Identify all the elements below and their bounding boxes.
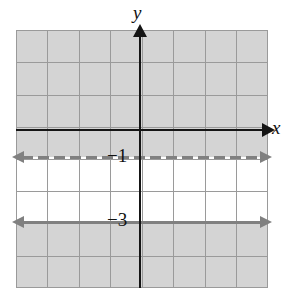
boundary-line-solid [22,221,262,224]
boundary-solid-left-arrow-icon [12,216,24,228]
y-axis-label: y [133,2,141,24]
x-axis-label: x [272,117,280,139]
plot-area [16,30,268,288]
coordinate-plane-figure: y x −1 −3 [0,0,288,308]
y-axis-arrow-icon [133,24,147,37]
boundary-solid-right-arrow-icon [260,216,272,228]
boundary-dashed-right-arrow-icon [260,151,272,163]
shaded-region-upper [16,30,268,157]
shaded-region-lower [16,222,268,288]
boundary-line-dashed [22,156,262,159]
tick-label-negative-three: −3 [107,209,127,231]
tick-label-negative-one: −1 [107,145,127,167]
boundary-dashed-left-arrow-icon [12,151,24,163]
y-axis-line [139,36,141,288]
